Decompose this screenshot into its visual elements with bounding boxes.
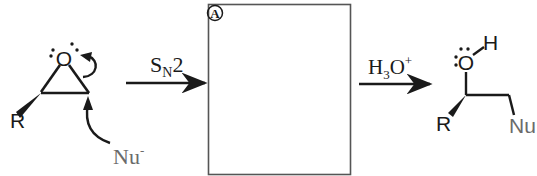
arrowhead-icon [83, 96, 93, 110]
epoxide-reactant: O R Nu- [10, 42, 144, 169]
hydrogen-atom: H [483, 31, 498, 54]
h3o-step-arrow: H3O+ [359, 53, 430, 84]
alcohol-product: O H R Nu [436, 31, 536, 137]
h3o-label: H3O+ [368, 53, 412, 82]
reaction-diagram: O R Nu- SN2 A H3 [0, 0, 537, 176]
intermediate-box: A [208, 5, 351, 175]
oxygen-atom: O [56, 47, 72, 70]
sn2-label: SN2 [150, 52, 183, 80]
r-substituent: R [10, 109, 25, 132]
nucleophile-label: Nu- [113, 143, 144, 169]
answer-box [209, 5, 351, 175]
sn2-step-arrow: SN2 [126, 52, 205, 83]
bond-c-nu [509, 95, 514, 115]
nucleophile-label: Nu [509, 114, 536, 137]
oxygen-atom: O [458, 51, 474, 74]
box-label: A [210, 6, 220, 21]
arrowhead-icon [80, 52, 92, 62]
r-substituent: R [436, 112, 451, 135]
